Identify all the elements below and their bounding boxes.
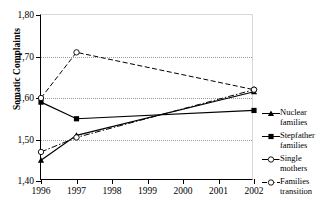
x-tick-label: 1997 xyxy=(67,186,86,196)
legend-item[interactable]: Nuclearfamilies xyxy=(262,108,330,127)
x-tick-label: 1996 xyxy=(32,186,51,196)
data-point-marker xyxy=(38,157,44,163)
legend-marker-open-circle-icon xyxy=(262,178,280,187)
series-line xyxy=(41,102,254,119)
y-tick-label: 1,70 xyxy=(17,52,34,62)
data-point-marker xyxy=(268,157,273,162)
legend-label: Stepfatherfamilies xyxy=(280,131,330,150)
data-point-marker xyxy=(74,135,79,140)
legend-marker-open-circle-icon xyxy=(262,155,280,164)
x-tick-label: 1999 xyxy=(138,186,157,196)
x-tick xyxy=(254,179,255,184)
series-nuclear-families xyxy=(38,89,257,163)
legend: NuclearfamiliesStepfatherfamiliesSinglem… xyxy=(262,108,330,200)
legend-item[interactable]: Familiestransition xyxy=(262,177,330,196)
data-point-marker xyxy=(74,50,79,55)
data-point-marker xyxy=(268,134,273,139)
legend-label-line2: transition xyxy=(280,187,330,197)
legend-marker-filled-triangle-icon xyxy=(262,109,280,118)
data-point-marker xyxy=(38,149,43,154)
y-axis-title: Somatic Complaints xyxy=(12,14,22,124)
data-point-marker xyxy=(268,180,273,185)
x-tick-label: 1998 xyxy=(103,186,122,196)
somatic-complaints-chart: Somatic Complaints 1,801,701,601,501,40 … xyxy=(0,0,330,210)
legend-label: Nuclearfamilies xyxy=(280,108,330,127)
series-layer xyxy=(41,15,254,181)
y-tick-label: 1,80 xyxy=(17,10,34,20)
y-tick-label: 1,60 xyxy=(17,93,34,103)
y-tick-label: 1,50 xyxy=(17,135,34,145)
data-point-marker xyxy=(74,116,79,121)
data-point-marker xyxy=(251,87,256,92)
legend-label-line2: mothers xyxy=(280,164,330,174)
legend-label: Singlemothers xyxy=(280,154,330,173)
data-point-marker xyxy=(38,95,43,100)
data-point-marker xyxy=(251,108,256,113)
legend-item[interactable]: Singlemothers xyxy=(262,154,330,173)
plot-area: 1,801,701,601,501,40 1996199719981999200… xyxy=(40,14,253,180)
legend-label: Familiestransition xyxy=(280,177,330,196)
series-single-mothers xyxy=(38,87,256,155)
legend-marker-filled-square-icon xyxy=(262,132,280,141)
x-tick-label: 2002 xyxy=(245,186,264,196)
series-line xyxy=(41,52,254,98)
legend-item[interactable]: Stepfatherfamilies xyxy=(262,131,330,150)
y-tick-label: 1,40 xyxy=(17,176,34,186)
x-tick-label: 2001 xyxy=(209,186,228,196)
series-line xyxy=(41,92,254,160)
series-families-transition xyxy=(38,50,256,101)
legend-label-line2: families xyxy=(280,118,330,128)
x-tick-label: 2000 xyxy=(174,186,193,196)
legend-label-line2: families xyxy=(280,141,330,151)
